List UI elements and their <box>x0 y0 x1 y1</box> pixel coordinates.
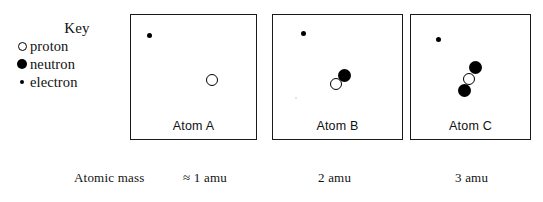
key-legend: Key proton neutron electron <box>14 20 126 91</box>
electron-particle <box>147 33 152 38</box>
key-item-neutron-label: neutron <box>30 55 75 73</box>
electron-particle <box>301 31 306 36</box>
atom-a-label: Atom A <box>131 119 256 133</box>
paper-speck <box>295 97 297 99</box>
key-item-neutron: neutron <box>14 55 126 73</box>
key-item-proton-label: proton <box>30 37 68 55</box>
filled-circle-icon <box>14 59 30 69</box>
atom-diagram-figure: Key proton neutron electron Atom A Atom … <box>0 0 543 202</box>
atom-c-mass-value: 3 amu <box>455 170 488 186</box>
neutron-particle <box>458 84 471 97</box>
key-title: Key <box>14 20 126 37</box>
proton-particle <box>463 73 475 85</box>
proton-particle <box>330 78 342 90</box>
electron-particle <box>436 37 441 42</box>
small-dot-icon <box>14 80 30 84</box>
atom-box-c: Atom C <box>410 14 531 140</box>
atom-box-a: Atom A <box>130 14 257 140</box>
neutron-particle <box>469 61 482 74</box>
atomic-mass-row-label: Atomic mass <box>74 170 144 186</box>
atom-b-label: Atom B <box>273 119 402 133</box>
key-item-electron-label: electron <box>30 73 78 91</box>
atom-box-b: Atom B <box>272 14 403 140</box>
key-item-proton: proton <box>14 37 126 55</box>
atom-a-mass-value: ≈ 1 amu <box>183 170 227 186</box>
open-circle-icon <box>14 42 30 51</box>
atom-b-mass-value: 2 amu <box>318 170 351 186</box>
key-item-electron: electron <box>14 73 126 91</box>
proton-particle <box>206 74 218 86</box>
atom-c-label: Atom C <box>411 119 530 133</box>
